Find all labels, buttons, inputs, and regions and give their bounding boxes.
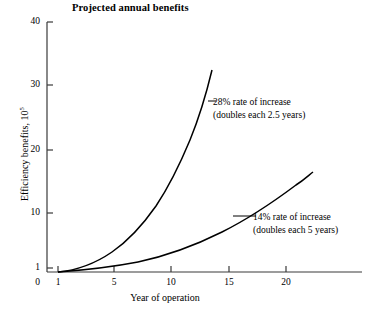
curve-14-percent xyxy=(58,172,313,272)
curve-28-percent xyxy=(58,70,212,272)
plot-area xyxy=(0,0,369,314)
chart-container: Projected annual benefits Efficiency ben… xyxy=(0,0,369,314)
